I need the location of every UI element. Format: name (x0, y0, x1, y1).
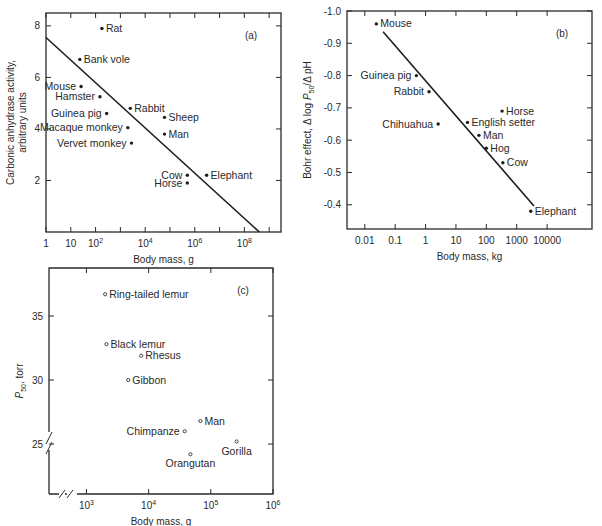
data-point (501, 161, 504, 164)
data-point (79, 85, 82, 88)
data-label: Mouse (380, 17, 412, 29)
y-tick-label: -0.5 (324, 167, 342, 178)
data-label: Orangutan (166, 457, 216, 469)
x-tick-label: 0.1 (388, 235, 402, 246)
data-label: Sheep (168, 111, 199, 123)
y-tick-label: 8 (34, 20, 40, 31)
y-axis-label-part: , torr (14, 363, 25, 384)
data-label: Guinea pig (361, 69, 412, 81)
data-label: Chihuahua (382, 118, 433, 130)
data-point (127, 378, 130, 381)
panel-c: 103104105106253035Ring-tailed lemurBlack… (14, 268, 281, 526)
x-axis-label: Body mass, g (133, 254, 194, 265)
data-label: Bank vole (84, 53, 130, 65)
x-tick-label: 106 (187, 237, 202, 249)
data-point (105, 343, 108, 346)
data-point (199, 419, 202, 422)
x-tick-exponent: 3 (90, 499, 94, 506)
panel-label: (a) (245, 30, 257, 41)
y-tick-label: -0.6 (324, 135, 342, 146)
data-point (235, 440, 238, 443)
data-label: Chimpanze (127, 425, 180, 437)
x-tick-label: 104 (138, 237, 153, 249)
data-point (477, 134, 480, 137)
data-point (485, 147, 488, 150)
x-tick-label: 10 (65, 238, 77, 249)
x-tick-label: 100 (478, 235, 495, 246)
data-label: Rabbit (134, 102, 164, 114)
y-axis-label: arbitrary units (17, 92, 28, 153)
x-tick-exponent: 4 (152, 499, 156, 506)
y-tick-label: -1.0 (324, 6, 342, 17)
y-tick-label: 35 (32, 311, 44, 322)
y-axis-label: Carbonic anhydrase activity, (5, 60, 16, 185)
data-label: Guinea pig (51, 107, 102, 119)
x-tick-label: 1000 (506, 235, 529, 246)
data-point (140, 354, 143, 357)
x-tick-label: 104 (141, 499, 156, 511)
x-tick-label: 108 (237, 237, 252, 249)
y-tick-label: 2 (34, 175, 40, 186)
y-tick-label: 25 (32, 439, 44, 450)
data-label: Elephant (211, 169, 253, 181)
data-label: Rabbit (394, 85, 424, 97)
data-label: Elephant (535, 205, 577, 217)
y-axis-label-part: Bohr effect, Δ log (302, 100, 313, 179)
y-axis-label-part: 50 (308, 86, 315, 94)
data-point (466, 121, 469, 124)
data-label: Man (204, 415, 225, 427)
data-point (163, 116, 166, 119)
y-tick-label: -0.8 (324, 70, 342, 81)
data-label: Ring-tailed lemur (109, 288, 189, 300)
x-tick-label: 0.01 (355, 235, 375, 246)
x-tick-label: 103 (79, 499, 94, 511)
data-point (529, 210, 532, 213)
data-label: Horse (506, 105, 534, 117)
x-tick-exponent: 6 (277, 499, 281, 506)
x-tick-label: 10000 (533, 235, 561, 246)
data-point (126, 126, 129, 129)
data-label: Horse (154, 177, 182, 189)
data-point (189, 453, 192, 456)
data-point (130, 141, 133, 144)
data-point (98, 95, 101, 98)
data-label: Rat (106, 22, 122, 34)
data-label: English setter (471, 116, 535, 128)
data-label: Man (168, 128, 189, 140)
data-label: Vervet monkey (57, 137, 127, 149)
y-axis-label: Bohr effect, Δ log P50/Δ pH (302, 61, 315, 179)
data-point (186, 181, 189, 184)
data-label: Black lemur (110, 338, 165, 350)
y-axis-label: P50, torr (14, 363, 27, 399)
x-tick-exponent: 8 (248, 237, 252, 244)
data-point (415, 74, 418, 77)
data-label: Rhesus (145, 349, 181, 361)
data-label: Gibbon (132, 374, 166, 386)
data-point (105, 112, 108, 115)
panel-b: 0.010.1110100100010000-1.0-0.9-0.8-0.7-0… (302, 6, 592, 263)
data-label: Cow (507, 156, 528, 168)
panel-label: (c) (237, 285, 249, 296)
data-label: Man (483, 129, 504, 141)
x-tick-label: 10 (450, 235, 462, 246)
panel-label: (b) (556, 28, 568, 39)
figure: 1101021041061082468RatBank voleMouseHams… (0, 0, 602, 526)
x-tick-label: 105 (203, 499, 218, 511)
data-point (427, 90, 430, 93)
x-axis-label: Body mass, kg (437, 251, 503, 262)
x-tick-label: 1 (423, 235, 429, 246)
regression-line (46, 37, 259, 232)
y-tick-label: -0.7 (324, 102, 342, 113)
data-point (186, 174, 189, 177)
data-point (78, 58, 81, 61)
y-axis-label-part: 50 (20, 384, 27, 392)
data-label: Hog (490, 142, 509, 154)
x-axis-label: Body mass, g (131, 516, 192, 526)
data-point (104, 293, 107, 296)
x-tick-label: 1 (43, 238, 49, 249)
x-tick-exponent: 5 (214, 499, 218, 506)
x-tick-exponent: 6 (198, 237, 202, 244)
data-point (129, 107, 132, 110)
y-tick-label: 30 (32, 375, 44, 386)
y-tick-label: -0.4 (324, 199, 342, 210)
